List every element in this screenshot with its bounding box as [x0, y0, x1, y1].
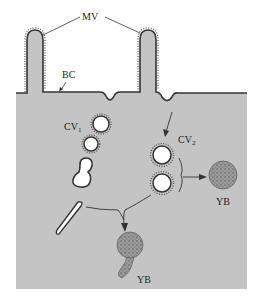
label-yb-right: YB: [216, 196, 230, 207]
diagram-canvas: MV BC CV1 CV2 YB YB: [0, 0, 258, 300]
label-yb-bottom: YB: [137, 274, 151, 285]
label-mv: MV: [82, 11, 99, 22]
mv-leader-right: [105, 17, 140, 33]
label-bc: BC: [62, 69, 76, 80]
plasma-membrane: [16, 30, 247, 101]
mv-leader-left: [43, 17, 80, 35]
yolk-body-right: [209, 161, 237, 189]
yolk-body-bottom: [117, 232, 143, 258]
